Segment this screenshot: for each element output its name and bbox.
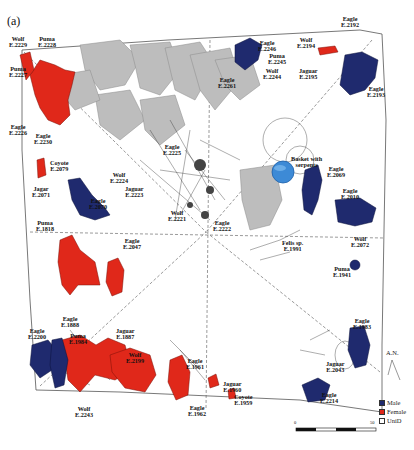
specimen-label: PumaE.2228 [38,36,56,49]
panel-label: (a) [7,14,20,29]
specimen-label: PumaE.2227 [9,66,27,79]
puma-e1941 [350,260,360,270]
specimen-label: CoyoteE.2079 [50,160,69,173]
offering-plan-diagram: (a) WolfE.2229 PumaE.2228 PumaE.2227 Eag… [0,0,414,450]
specimen-label: EagleE.2246 [258,40,276,53]
north-arrow [388,360,400,380]
specimen-label: EagleE.2070 [89,198,107,211]
specimen-label: WolfE.2243 [75,406,93,419]
specimen-label: WolfE.2229 [9,36,27,49]
specimen-label: JaguarE.1887 [116,328,135,341]
male-swatch [379,400,385,406]
specimen-label: EagleE.2069 [327,166,345,179]
specimen-label: JaguarE.1960 [223,381,242,394]
specimen-label: EagleE.1888 [61,316,79,329]
legend: Male Female UniD [379,398,406,425]
specimen-label: Basket withserpents [291,156,322,169]
specimen-label: JaguarE.2223 [125,186,144,199]
scale-end: 50 [370,420,375,426]
specimen-label: JaguarE.2195 [299,68,318,81]
specimen-label: CoyoteE.1959 [234,394,253,407]
specimen-label: EagleE.2010 [341,188,359,201]
specimen-label: PumaE.1984 [69,333,87,346]
female-swatch [379,409,385,415]
specimen-label: WolfE.2244 [263,68,281,81]
specimen-label: EagleE.2200 [28,328,46,341]
scale-bar [296,428,376,431]
specimen-label: EagleE.1983 [353,318,371,331]
scale-start: 0 [294,420,296,426]
specimen-label: PumaE.2245 [268,53,286,66]
specimen-label: JaguarE.2043 [326,361,345,374]
legend-item-female: Female [379,407,406,416]
specimen-label: WolfE.2194 [297,37,315,50]
specimen-label: WolfE.2199 [126,352,144,365]
specimen-label: WolfE.2224 [110,172,128,185]
specimen-label: EagleE.1961 [186,358,204,371]
specimen-label: EagleE.2225 [163,144,181,157]
specimen-label: EagleE.2193 [367,86,385,99]
specimen-label: EagleE.2047 [123,238,141,251]
specimen-label: EagleE.2261 [218,77,236,90]
specimen-label: PumaE.1941 [333,266,351,279]
specimen-label: WolfE.2221 [168,210,186,223]
specimen-label: PumaE.1818 [36,220,54,233]
legend-item-male: Male [379,398,406,407]
north-label: A.N. [386,349,399,356]
specimen-label: EagleE.1962 [188,405,206,418]
specimen-label: EagleE.2192 [341,16,359,29]
specimen-label: WolfE.2072 [351,236,369,249]
specimen-label: Felis sp.E.1991 [282,240,303,253]
specimen-label: JagarE.2071 [32,186,50,199]
specimen-label: EagleE.2222 [213,220,231,233]
specimen-label: EagleE.2214 [320,392,338,405]
specimen-label: EagleE.2226 [9,124,27,137]
excavation-plan-drawing [0,0,414,450]
unid-swatch [379,418,385,424]
specimen-label: EagleE.2230 [34,133,52,146]
legend-item-unid: UniD [379,416,406,425]
